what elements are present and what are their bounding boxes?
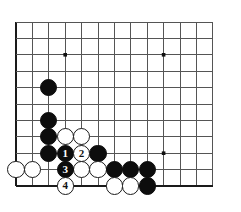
star-point (162, 151, 166, 155)
star-point (63, 53, 67, 57)
stone-black (89, 145, 106, 162)
stone-white (57, 128, 74, 145)
stone-white (122, 177, 139, 194)
move-number-label: 1 (58, 146, 73, 161)
go-board-diagram: 1234 (0, 0, 241, 212)
stone-white (89, 161, 106, 178)
stone-white (106, 177, 123, 194)
move-number-label: 4 (58, 178, 73, 193)
stone-black (139, 177, 156, 194)
stone-black (106, 161, 123, 178)
stone-white (24, 161, 41, 178)
stone-black (139, 161, 156, 178)
move-stone-4: 4 (57, 177, 74, 194)
stone-black (40, 145, 57, 162)
move-stone-1: 1 (57, 145, 74, 162)
move-number-label: 2 (74, 146, 89, 161)
stone-white (7, 161, 24, 178)
move-number-label: 3 (58, 162, 73, 177)
move-stone-3: 3 (57, 161, 74, 178)
move-stone-2: 2 (73, 145, 90, 162)
star-point (162, 53, 166, 57)
